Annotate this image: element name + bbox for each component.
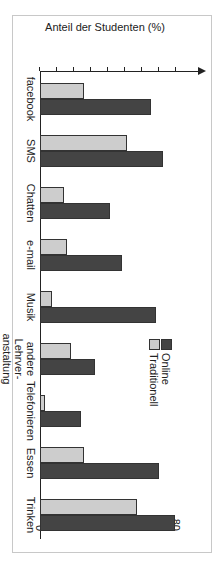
y-tick (107, 67, 108, 71)
y-axis (40, 71, 200, 72)
y-tick (39, 67, 40, 71)
bar-traditionell (40, 135, 127, 151)
bar-online (40, 151, 163, 167)
bar-traditionell (40, 83, 84, 99)
category-label: Trinken (25, 475, 37, 555)
legend-swatch-online (161, 339, 172, 350)
y-tick (56, 67, 57, 71)
bar-online (40, 515, 175, 531)
bar-traditionell (40, 447, 84, 463)
y-tick (73, 67, 74, 71)
legend: Online Traditionell (148, 339, 172, 406)
bar-chart: Anteil der Studenten (%) Online Traditio… (15, 23, 210, 548)
bar-online (40, 255, 122, 271)
bar-online (40, 411, 81, 427)
legend-swatch-traditionell (149, 339, 160, 350)
bar-online (40, 463, 159, 479)
y-axis-label: Anteil der Studenten (%) (5, 21, 205, 33)
bar-online (40, 359, 95, 375)
bar-traditionell (40, 395, 45, 411)
bar-traditionell (40, 187, 64, 203)
bar-online (40, 99, 151, 115)
bar-traditionell (40, 291, 52, 307)
legend-item-traditionell: Traditionell (148, 339, 160, 406)
chart-frame: Anteil der Studenten (%) Online Traditio… (12, 15, 212, 553)
y-tick (124, 67, 125, 71)
y-tick (90, 67, 91, 71)
plot-area: Anteil der Studenten (%) Online Traditio… (40, 71, 190, 539)
bar-online (40, 307, 156, 323)
bar-online (40, 203, 110, 219)
bar-traditionell (40, 499, 137, 515)
y-tick (141, 67, 142, 71)
y-tick (175, 67, 176, 71)
legend-item-online: Online (160, 339, 172, 406)
bar-traditionell (40, 343, 71, 359)
y-tick (158, 67, 159, 71)
bar-traditionell (40, 239, 67, 255)
